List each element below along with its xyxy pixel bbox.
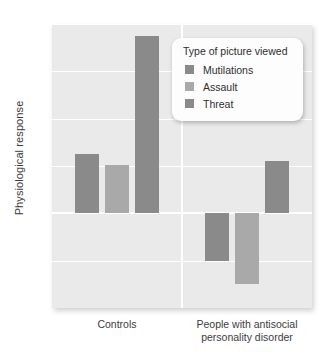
bar	[75, 154, 98, 213]
legend-swatch-icon	[185, 65, 194, 74]
legend-entries: MutilationsAssaultThreat	[172, 62, 303, 113]
bar	[135, 36, 158, 214]
y-axis-title: Physiological response	[13, 68, 25, 248]
legend-title: Type of picture viewed	[172, 45, 303, 62]
legend-swatch-icon	[185, 99, 194, 108]
x-axis-label: Controls	[52, 318, 182, 331]
bar	[235, 213, 258, 284]
legend: Type of picture viewed MutilationsAssaul…	[172, 38, 303, 121]
bar	[105, 165, 128, 214]
legend-swatch-icon	[185, 82, 194, 91]
bar	[265, 161, 288, 213]
x-axis-label: People with antisocialpersonality disord…	[182, 318, 312, 344]
chart-container: Physiological response 86420−2−4 Control…	[0, 0, 328, 359]
legend-entry: Mutilations	[172, 62, 303, 79]
bar	[205, 213, 228, 260]
legend-label: Assault	[203, 81, 237, 93]
legend-label: Threat	[203, 98, 233, 110]
legend-entry: Threat	[172, 96, 303, 113]
legend-entry: Assault	[172, 79, 303, 96]
legend-label: Mutilations	[203, 64, 253, 76]
